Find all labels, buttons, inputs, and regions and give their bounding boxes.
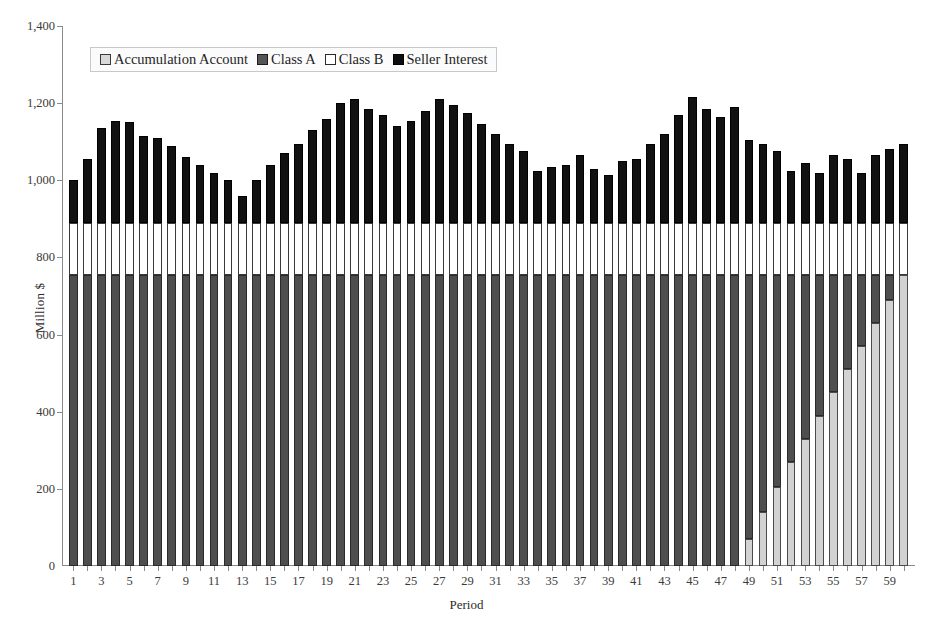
x-axis-tick-label: 33: [517, 574, 530, 589]
y-axis-tick-mark: [57, 26, 62, 27]
x-axis-tick-mark: [73, 566, 74, 571]
x-axis-tick-label: 7: [155, 574, 161, 589]
x-axis-tick-mark: [862, 566, 863, 571]
chart-legend: Accumulation AccountClass AClass BSeller…: [90, 47, 497, 72]
x-axis-tick-label: 9: [183, 574, 189, 589]
x-axis-tick-label: 51: [771, 574, 784, 589]
legend-item-label: Class A: [271, 51, 316, 68]
plot-area: [62, 26, 915, 566]
x-axis-tick-label: 41: [630, 574, 643, 589]
x-axis-tick-label: 53: [799, 574, 812, 589]
legend-item: Accumulation Account: [100, 51, 248, 68]
x-axis-tick-mark: [313, 566, 314, 571]
y-axis-tick-label: 1,200: [0, 96, 62, 111]
x-axis-tick-mark: [467, 566, 468, 571]
x-axis-tick-label: 55: [827, 574, 840, 589]
x-axis-tick-mark: [847, 566, 848, 571]
x-axis-tick-mark: [327, 566, 328, 571]
x-axis-tick-label: 29: [461, 574, 474, 589]
legend-swatch-icon: [325, 54, 336, 65]
x-axis-tick-mark: [664, 566, 665, 571]
x-axis-tick-label: 1: [70, 574, 76, 589]
legend-item-label: Seller Interest: [407, 51, 488, 68]
y-axis-tick-label: 800: [0, 250, 62, 265]
x-axis-tick-mark: [510, 566, 511, 571]
x-axis-tick-mark: [172, 566, 173, 571]
x-axis-tick-mark: [622, 566, 623, 571]
x-axis-tick-mark: [284, 566, 285, 571]
x-axis-tick-label: 27: [433, 574, 446, 589]
x-axis-tick-mark: [594, 566, 595, 571]
y-axis-tick-label: 200: [0, 481, 62, 496]
legend-item: Seller Interest: [393, 51, 488, 68]
x-axis-tick-mark: [566, 566, 567, 571]
x-axis-tick-mark: [636, 566, 637, 571]
x-axis-tick-mark: [270, 566, 271, 571]
x-axis-tick-mark: [524, 566, 525, 571]
legend-item-label: Class B: [339, 51, 384, 68]
x-axis-tick-mark: [256, 566, 257, 571]
x-axis-tick-mark: [805, 566, 806, 571]
y-axis-tick-mark: [57, 489, 62, 490]
x-axis-tick-mark: [679, 566, 680, 571]
x-axis-tick-label: 39: [602, 574, 615, 589]
x-axis-tick-label: 19: [320, 574, 333, 589]
x-axis-tick-mark: [425, 566, 426, 571]
x-axis-tick-mark: [298, 566, 299, 571]
x-axis-tick-label: 35: [546, 574, 559, 589]
x-axis-tick-mark: [904, 566, 905, 571]
x-axis-tick-label: 17: [292, 574, 305, 589]
y-axis-tick-label: 600: [0, 327, 62, 342]
x-axis-tick-mark: [439, 566, 440, 571]
x-axis-tick-mark: [87, 566, 88, 571]
legend-item: Class A: [257, 51, 316, 68]
x-axis-tick-mark: [890, 566, 891, 571]
x-axis-tick-label: 57: [855, 574, 868, 589]
x-axis-tick-mark: [496, 566, 497, 571]
x-axis-tick-mark: [355, 566, 356, 571]
x-axis-tick-mark: [383, 566, 384, 571]
x-axis-tick-mark: [453, 566, 454, 571]
x-axis-tick-mark: [876, 566, 877, 571]
x-axis-tick-label: 23: [377, 574, 390, 589]
y-axis-tick-mark: [57, 412, 62, 413]
x-axis-tick-mark: [693, 566, 694, 571]
y-axis-tick-label: 0: [0, 559, 62, 574]
x-axis-tick-label: 43: [658, 574, 671, 589]
x-axis-tick-mark: [101, 566, 102, 571]
x-axis-tick-mark: [777, 566, 778, 571]
legend-swatch-icon: [100, 54, 111, 65]
x-axis-tick-label: 37: [574, 574, 587, 589]
y-axis-tick-label: 1,000: [0, 173, 62, 188]
legend-item-label: Accumulation Account: [114, 51, 248, 68]
x-axis-tick-mark: [721, 566, 722, 571]
chart-container: Million $ 02004006008001,0001,2001,40013…: [0, 0, 933, 620]
x-axis-tick-mark: [115, 566, 116, 571]
y-axis-tick-label: 1,400: [0, 19, 62, 34]
x-axis-tick-label: 59: [883, 574, 896, 589]
x-axis-tick-mark: [749, 566, 750, 571]
x-axis-tick-mark: [819, 566, 820, 571]
y-axis-label: Million $: [32, 248, 48, 368]
y-axis-tick-label: 400: [0, 404, 62, 419]
x-axis-tick-mark: [369, 566, 370, 571]
y-axis-tick-mark: [57, 335, 62, 336]
x-axis-tick-mark: [481, 566, 482, 571]
x-axis-tick-mark: [552, 566, 553, 571]
x-axis-tick-mark: [158, 566, 159, 571]
x-axis-tick-mark: [580, 566, 581, 571]
x-axis-tick-mark: [833, 566, 834, 571]
y-axis-tick-mark: [57, 257, 62, 258]
x-axis-tick-mark: [186, 566, 187, 571]
x-axis-tick-mark: [341, 566, 342, 571]
x-axis-tick-label: 25: [405, 574, 418, 589]
x-axis-tick-mark: [144, 566, 145, 571]
legend-item: Class B: [325, 51, 384, 68]
x-axis-tick-label: 31: [489, 574, 502, 589]
x-axis-tick-mark: [707, 566, 708, 571]
x-axis-tick-label: 13: [236, 574, 249, 589]
x-axis-tick-label: 49: [743, 574, 756, 589]
x-axis-tick-mark: [130, 566, 131, 571]
x-axis-tick-mark: [791, 566, 792, 571]
x-axis-tick-mark: [608, 566, 609, 571]
